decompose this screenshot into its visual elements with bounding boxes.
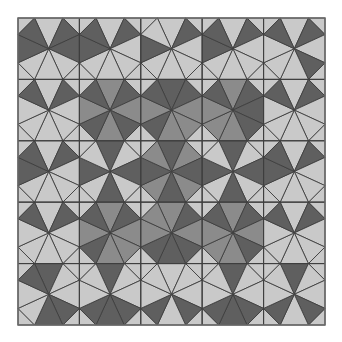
tile-cells (18, 18, 325, 325)
triangle-tiling (0, 0, 342, 342)
